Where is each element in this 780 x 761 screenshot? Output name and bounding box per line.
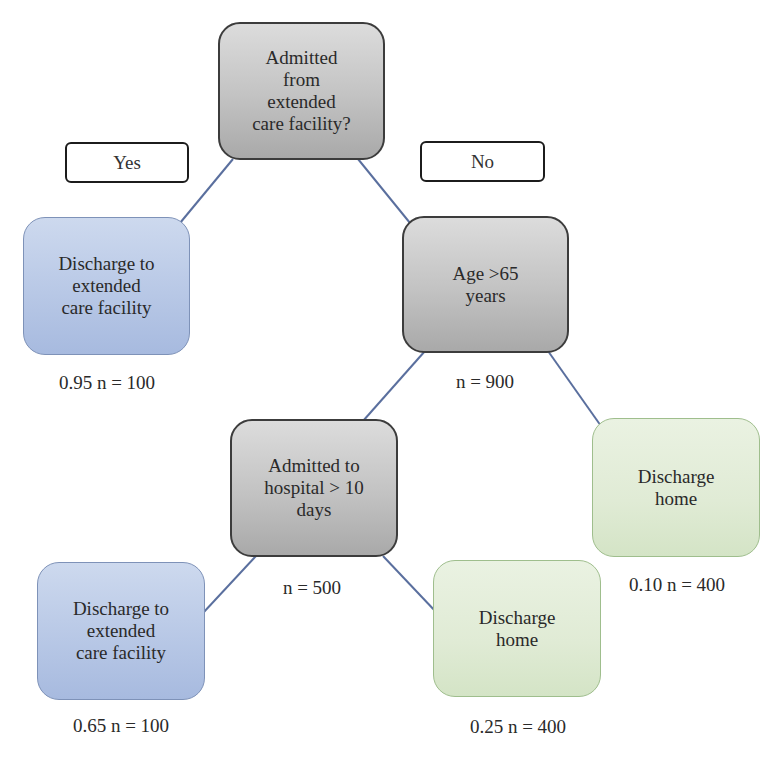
extended-care-leaf-bottom-text: Discharge to extended care facility [73,598,169,664]
extended-care-leaf-bottom: Discharge to extended care facility [37,562,205,700]
discharge-home-leaf-right: Discharge home [592,418,760,557]
age-decision-node: Age >65 years [402,216,569,353]
discharge-home-leaf-right-text: Discharge home [638,466,715,510]
yes-branch-label: Yes [65,142,189,183]
age-decision-caption: n = 900 [456,371,514,393]
discharge-home-leaf-bottom-caption: 0.25 n = 400 [470,716,566,738]
edge-age-to-home-right [548,351,601,426]
hospital-stay-decision-node: Admitted to hospital > 10 days [230,419,398,557]
root-decision-node: Admitted from extended care facility? [218,22,385,160]
edge-age-to-hospital [363,351,425,421]
edge-hospital-to-home-bottom [383,556,437,613]
extended-care-leaf-top-text: Discharge to extended care facility [58,253,154,319]
extended-care-leaf-bottom-caption: 0.65 n = 100 [73,715,169,737]
age-decision-text: Age >65 years [452,263,518,307]
yes-label-text: Yes [113,152,141,174]
extended-care-leaf-top-caption: 0.95 n = 100 [59,372,155,394]
edge-hospital-to-extended-bottom [203,556,256,613]
hospital-stay-decision-text: Admitted to hospital > 10 days [264,455,363,521]
discharge-home-leaf-bottom: Discharge home [433,560,601,697]
no-label-text: No [471,151,494,173]
discharge-home-leaf-right-caption: 0.10 n = 400 [629,574,725,596]
root-decision-text: Admitted from extended care facility? [252,47,351,135]
extended-care-leaf-top: Discharge to extended care facility [23,217,190,355]
hospital-stay-decision-caption: n = 500 [283,577,341,599]
no-branch-label: No [420,141,545,182]
discharge-home-leaf-bottom-text: Discharge home [479,607,556,651]
edge-root-to-age [358,159,410,223]
